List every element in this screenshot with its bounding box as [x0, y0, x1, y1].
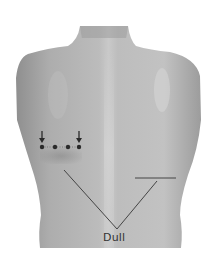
percussion-dot: [77, 145, 81, 149]
back-illustration: Dull: [0, 0, 215, 266]
back-silhouette: [0, 0, 215, 266]
scapula-highlight-left: [48, 71, 68, 119]
neck-shade: [80, 26, 128, 38]
percussion-dot: [40, 145, 44, 149]
scapula-highlight-right: [154, 68, 170, 112]
dull-label: Dull: [103, 231, 125, 244]
dull-zone-shading: [40, 148, 82, 164]
spine-highlight: [104, 50, 114, 248]
percussion-dot: [53, 145, 57, 149]
percussion-dot: [66, 145, 70, 149]
